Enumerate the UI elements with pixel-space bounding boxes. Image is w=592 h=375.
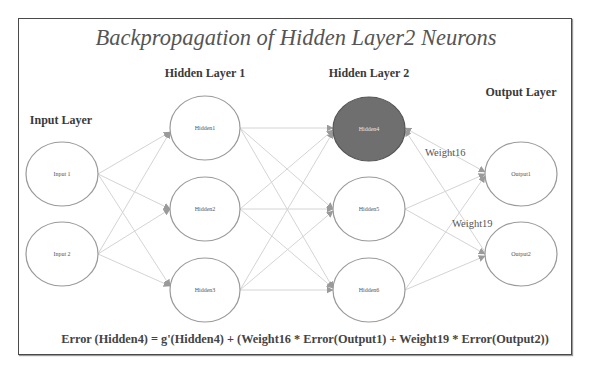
neural-network-diagram: Backpropagation of Hidden Layer2 Neurons… (0, 0, 592, 375)
layer-label-output: Output Layer (485, 85, 557, 99)
weight19-label: Weight19 (452, 218, 493, 229)
node-label: Input 1 (53, 171, 70, 177)
node-label: Hidden4 (359, 126, 380, 132)
layer-label-hidden2: Hidden Layer 2 (329, 66, 409, 80)
node-hidden4-highlighted[interactable]: Hidden4 (333, 97, 405, 161)
node-label: Output2 (511, 251, 531, 257)
node-label: Hidden5 (359, 206, 380, 212)
node-label: Hidden2 (195, 206, 216, 212)
weight16-label: Weight16 (425, 147, 466, 158)
node-output1[interactable]: Output1 (485, 142, 557, 206)
node-input1[interactable]: Input 1 (26, 142, 98, 206)
node-hidden1[interactable]: Hidden1 (170, 96, 240, 160)
node-hidden6[interactable]: Hidden6 (333, 258, 405, 322)
node-label: Output1 (511, 171, 531, 177)
node-hidden5[interactable]: Hidden5 (333, 177, 405, 241)
diagram-title: Backpropagation of Hidden Layer2 Neurons (96, 25, 497, 50)
node-label: Input 2 (53, 251, 70, 257)
error-formula: Error (Hidden4) = g'(Hidden4) + (Weight1… (61, 332, 549, 346)
edges-input-to-hidden1 (98, 132, 170, 286)
node-label: Hidden3 (195, 287, 216, 293)
node-output2[interactable]: Output2 (485, 222, 557, 286)
layer-label-input: Input Layer (30, 113, 93, 127)
layer-label-hidden1: Hidden Layer 1 (165, 66, 245, 80)
node-input2[interactable]: Input 2 (26, 222, 98, 286)
edges-hidden1-to-hidden2 (240, 128, 333, 290)
node-label: Hidden1 (195, 125, 216, 131)
node-hidden3[interactable]: Hidden3 (170, 258, 240, 322)
node-label: Hidden6 (359, 287, 380, 293)
node-hidden2[interactable]: Hidden2 (170, 177, 240, 241)
